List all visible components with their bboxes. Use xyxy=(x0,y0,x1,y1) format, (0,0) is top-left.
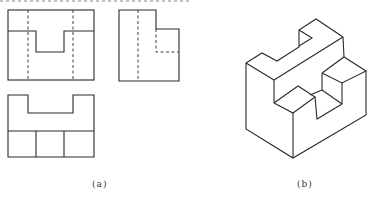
isometric-view xyxy=(246,19,366,158)
front-view xyxy=(8,10,94,80)
drawing-canvas xyxy=(0,0,368,199)
caption-a: (a) xyxy=(92,179,107,189)
side-view xyxy=(119,10,179,81)
caption-b: (b) xyxy=(297,179,313,189)
top-view xyxy=(8,95,94,157)
